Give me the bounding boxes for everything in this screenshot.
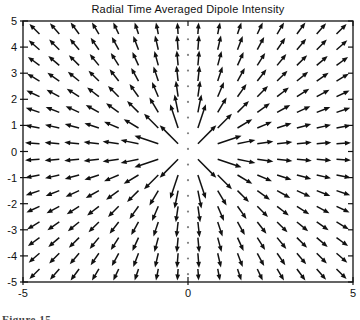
quiver-arrow-head bbox=[121, 159, 127, 164]
quiver-arrow-head bbox=[170, 192, 175, 198]
quiver-arrow-head bbox=[25, 141, 31, 146]
quiver-arrow-head bbox=[325, 175, 331, 180]
y-tick-label: -5 bbox=[7, 276, 17, 288]
quiver-arrow-shaft bbox=[218, 137, 238, 144]
quiver-arrow-head bbox=[202, 192, 207, 198]
quiver-arrow-head bbox=[174, 81, 179, 87]
quiver-arrow-head bbox=[217, 261, 222, 267]
quiver-arrow-head bbox=[134, 23, 139, 29]
quiver-arrow-head bbox=[260, 244, 265, 250]
quiver-arrow-head bbox=[84, 158, 90, 163]
quiver-arrow-head bbox=[132, 52, 137, 58]
quiver-arrow-head bbox=[65, 175, 71, 180]
quiver-arrow-head bbox=[258, 23, 263, 29]
quiver-arrow-head bbox=[67, 209, 73, 214]
quiver-arrow-head bbox=[196, 274, 201, 280]
quiver-arrow-head bbox=[324, 107, 330, 111]
quiver-arrow-head bbox=[196, 246, 201, 252]
quiver-arrow-head bbox=[112, 37, 117, 43]
quiver-arrow-head bbox=[92, 23, 97, 29]
quiver-arrow-head bbox=[239, 52, 244, 58]
quiver-arrow-head bbox=[175, 35, 180, 41]
quiver-arrow-head bbox=[45, 141, 51, 146]
quiver-arrow-head bbox=[66, 106, 72, 111]
quiver-arrow-head bbox=[175, 231, 180, 237]
quiver-arrow-shaft bbox=[138, 159, 158, 166]
quiver-arrow-shaft bbox=[147, 175, 158, 186]
quiver-arrow-head bbox=[197, 81, 202, 87]
dipole-quiver-figure: Radial Time Averaged Dipole Intensity 54… bbox=[0, 0, 360, 320]
quiver-arrow-shaft bbox=[138, 137, 158, 144]
dipole-axis-dot bbox=[187, 132, 189, 134]
dipole-axis-dot bbox=[187, 101, 189, 103]
quiver-arrow-shaft bbox=[163, 159, 179, 175]
quiver-arrow-head bbox=[84, 176, 90, 181]
quiver-arrow-head bbox=[345, 158, 351, 163]
quiver-arrow-head bbox=[111, 244, 116, 250]
quiver-arrow-head bbox=[27, 224, 33, 229]
quiver-arrow-head bbox=[154, 246, 159, 252]
quiver-arrow-head bbox=[345, 141, 351, 146]
quiver-arrow-head bbox=[175, 66, 180, 72]
quiver-arrow-head bbox=[342, 224, 348, 229]
quiver-arrow-head bbox=[84, 140, 90, 145]
x-tick-label: -5 bbox=[18, 287, 28, 299]
quiver-arrow-head bbox=[174, 216, 179, 222]
quiver-arrow-head bbox=[324, 191, 330, 195]
dipole-axis-dot bbox=[187, 38, 189, 40]
quiver-arrow-head bbox=[305, 175, 311, 180]
quiver-arrow-head bbox=[249, 159, 255, 164]
quiver-arrow-head bbox=[104, 122, 110, 127]
quiver-arrow-head bbox=[47, 208, 53, 213]
dipole-axis-dot bbox=[187, 179, 189, 181]
quiver-arrow-shaft bbox=[238, 141, 252, 144]
y-tick-label: -2 bbox=[7, 198, 17, 210]
quiver-arrow-head bbox=[175, 23, 180, 29]
dipole-axis-dot bbox=[187, 148, 189, 150]
quiver-arrow-head bbox=[154, 261, 159, 267]
quiver-arrow-head bbox=[84, 123, 90, 128]
dipole-axis-dot bbox=[187, 273, 189, 275]
quiver-arrow-head bbox=[113, 274, 118, 280]
quiver-arrow-head bbox=[219, 82, 224, 88]
quiver-arrow-head bbox=[196, 262, 201, 268]
quiver-arrow-head bbox=[26, 191, 32, 196]
y-tick-label: -1 bbox=[7, 172, 17, 184]
dipole-axis-dot bbox=[187, 257, 189, 259]
dipole-axis-dot bbox=[187, 69, 189, 71]
y-tick-label: 4 bbox=[11, 41, 17, 53]
quiver-arrow-head bbox=[155, 274, 160, 280]
quiver-arrow-head bbox=[221, 199, 226, 205]
quiver-arrow-head bbox=[325, 124, 331, 129]
quiver-arrow-head bbox=[344, 107, 350, 112]
quiver-arrow-head bbox=[221, 98, 226, 104]
quiver-arrow-head bbox=[246, 179, 252, 184]
quiver-arrow-head bbox=[286, 140, 292, 145]
dipole-axis-dot bbox=[187, 116, 189, 118]
quiver-arrow-head bbox=[111, 53, 116, 59]
quiver-arrow-head bbox=[343, 208, 349, 213]
x-tick-label: 5 bbox=[350, 287, 356, 299]
quiver-arrow-shaft bbox=[175, 191, 178, 205]
quiver-arrow-head bbox=[235, 135, 241, 140]
quiver-arrow-head bbox=[306, 158, 312, 163]
quiver-arrow-head bbox=[260, 53, 265, 59]
quiver-arrow-head bbox=[175, 51, 180, 57]
quiver-arrow-head bbox=[249, 139, 255, 144]
quiver-arrow-shaft bbox=[218, 117, 229, 128]
quiver-arrow-head bbox=[218, 230, 223, 236]
quiver-arrow-head bbox=[285, 176, 291, 181]
quiver-arrow-head bbox=[218, 67, 223, 73]
quiver-arrow-shaft bbox=[198, 191, 201, 205]
quiver-arrow-head bbox=[124, 119, 130, 124]
quiver-arrow-head bbox=[149, 199, 154, 205]
quiver-arrow-shaft bbox=[238, 159, 252, 162]
quiver-arrow-head bbox=[175, 262, 180, 268]
y-tick-label: 1 bbox=[11, 119, 17, 131]
quiver-arrow-head bbox=[265, 177, 271, 182]
quiver-arrow-head bbox=[285, 123, 291, 128]
quiver-arrow-head bbox=[238, 260, 242, 266]
quiver-arrow-head bbox=[155, 23, 160, 29]
quiver-arrow-head bbox=[259, 260, 264, 266]
quiver-arrow-head bbox=[25, 174, 31, 179]
